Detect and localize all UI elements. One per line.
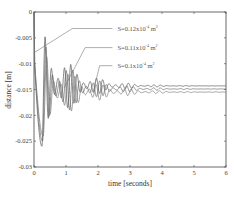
- y-tick-label: -0.01: [18, 60, 32, 67]
- y-axis-label: distance [m]: [4, 71, 13, 108]
- x-tick-label: 3: [128, 169, 131, 176]
- y-tick-label: -0.005: [15, 34, 32, 41]
- x-tick-label: 5: [192, 169, 195, 176]
- x-tick-label: 0: [32, 169, 35, 176]
- x-tick-label: 2: [96, 169, 99, 176]
- x-tick-label: 4: [160, 169, 164, 176]
- distance-vs-time-chart: 0123456 0-0.005-0.01-0.015-0.02-0.025-0.…: [0, 0, 234, 197]
- legend-label: S=0.1x10-4 m2: [117, 61, 154, 69]
- x-tick-label: 1: [64, 169, 67, 176]
- legend-label: S=0.11x10-4 m2: [117, 43, 157, 51]
- legend-label: S=0.12x10-4 m2: [117, 24, 157, 32]
- y-tick-label: -0.02: [18, 112, 32, 119]
- y-tick-label: -0.03: [18, 163, 32, 170]
- x-tick-label: 6: [224, 169, 228, 176]
- y-tick-label: -0.025: [15, 137, 32, 144]
- y-tick-label: -0.015: [15, 86, 32, 93]
- y-tick-label: 0: [29, 8, 32, 15]
- x-axis-label: time [seconds]: [108, 179, 152, 188]
